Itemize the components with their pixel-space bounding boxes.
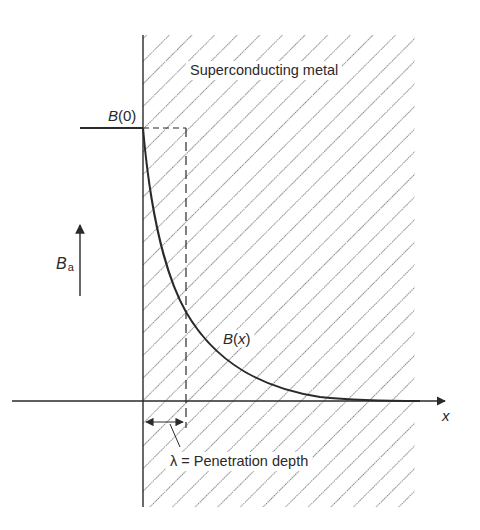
bx-label: B(x) bbox=[220, 330, 254, 347]
bx-symbol: B bbox=[223, 330, 233, 347]
superconducting-metal-region bbox=[143, 35, 415, 507]
bx-var: x bbox=[238, 330, 246, 347]
penetration-depth-label: λ = Penetration depth bbox=[166, 452, 312, 471]
ba-subscript: a bbox=[68, 261, 74, 273]
b0-arg: (0) bbox=[118, 107, 136, 124]
b0-label: B(0) bbox=[108, 108, 136, 123]
x-axis-label: x bbox=[442, 408, 450, 423]
b0-symbol: B bbox=[108, 107, 118, 124]
ba-symbol: B bbox=[56, 255, 67, 272]
bx-close: ) bbox=[246, 330, 251, 347]
ba-label: Ba bbox=[56, 256, 74, 273]
superconducting-metal-label: Superconducting metal bbox=[186, 61, 342, 80]
